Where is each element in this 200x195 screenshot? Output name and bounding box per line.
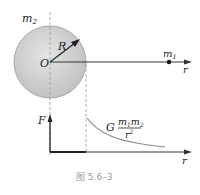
gravitation-diagram: m2 R O m1 r F r G m1m2 r2 图 5.6–3 — [0, 0, 200, 195]
sphere-label: m2 — [22, 12, 37, 26]
r-axis-bottom-arrow-icon — [184, 150, 192, 155]
r-axis-bottom-label: r — [182, 155, 188, 166]
center-label: O — [40, 57, 49, 70]
svg-text:G: G — [106, 121, 115, 134]
f-axis-arrow-icon — [48, 114, 53, 122]
point-m1-label: m1 — [163, 48, 177, 61]
svg-text:m1m2: m1m2 — [118, 116, 144, 128]
point-m1 — [167, 60, 171, 64]
svg-text:r2: r2 — [125, 128, 134, 140]
figure-caption: 图 5.6–3 — [76, 172, 112, 182]
radius-label: R — [57, 40, 66, 53]
r-axis-top-label: r — [183, 64, 189, 75]
f-axis-label: F — [37, 114, 46, 127]
